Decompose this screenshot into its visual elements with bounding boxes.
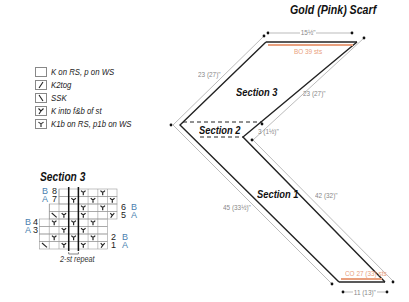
bottom-width-measure: 11 (13)" (353, 288, 377, 297)
scarf-schematic (0, 0, 409, 302)
section-2-measure: 3 (1½)" (258, 127, 279, 136)
right-lower-measure: 42 (32)" (315, 191, 338, 200)
left-lower-measure: 45 (33½)" (223, 203, 251, 212)
left-upper-measure: 23 (27)" (198, 70, 221, 79)
section-2-label: Section 2 (199, 124, 241, 136)
right-upper-measure: 23 (27)" (303, 89, 326, 98)
cast-on-label: CO 27 (33) sts (345, 269, 387, 278)
section-3-label: Section 3 (236, 86, 278, 98)
bind-off-label: BO 39 sts (294, 47, 322, 56)
top-width-measure: 15½" (300, 28, 316, 37)
section-1-label: Section 1 (257, 188, 299, 200)
